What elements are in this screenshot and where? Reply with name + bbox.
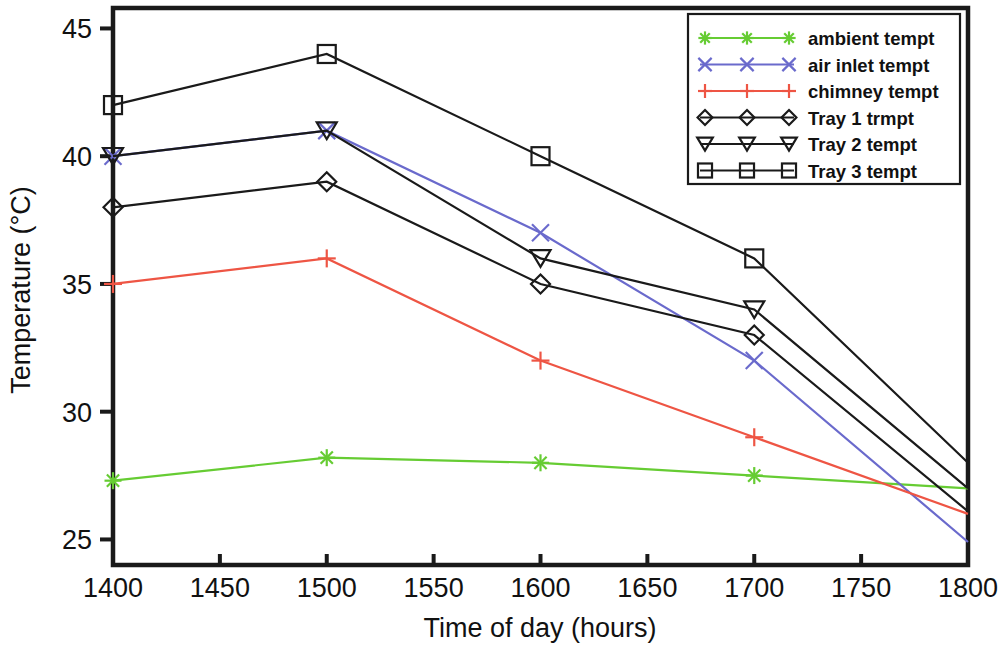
x-tick-label: 1600 [510, 573, 570, 603]
x-tick-label: 1550 [404, 573, 464, 603]
data-point-marker [532, 454, 549, 471]
y-tick-label: 30 [62, 398, 92, 428]
x-tick-label: 1650 [617, 573, 677, 603]
y-tick-label: 35 [62, 270, 92, 300]
data-point-marker [532, 352, 550, 370]
legend-label: air inlet tempt [808, 55, 929, 76]
x-tick-label: 1500 [297, 573, 357, 603]
x-tick-label: 1400 [83, 573, 143, 603]
data-point-marker [104, 275, 122, 293]
x-tick-label: 1800 [938, 573, 998, 603]
data-point-marker [740, 31, 753, 44]
data-point-marker [745, 428, 763, 446]
data-point-marker [746, 467, 763, 484]
y-axis-title: Temperature (°C) [6, 186, 36, 393]
series-ambient-tempt [105, 449, 969, 489]
chart-legend: ambient temptair inlet temptchimney temp… [688, 14, 960, 184]
legend-label: ambient tempt [808, 28, 934, 49]
x-axis-title: Time of day (hours) [423, 613, 656, 643]
legend-label: Tray 1 trmpt [808, 108, 914, 129]
data-point-marker [746, 352, 763, 369]
temperature-line-chart: 140014501500155016001650170017501800 253… [0, 0, 999, 649]
data-point-marker [532, 224, 549, 241]
series-line [113, 258, 968, 514]
y-tick-label: 40 [62, 142, 92, 172]
legend-label: Tray 2 tempt [808, 134, 917, 155]
chart-canvas: 140014501500155016001650170017501800 253… [0, 0, 999, 649]
x-tick-label: 1450 [190, 573, 250, 603]
legend-label: chimney tempt [808, 81, 939, 102]
x-axis-tick-labels: 140014501500155016001650170017501800 [83, 573, 998, 603]
x-tick-label: 1750 [831, 573, 891, 603]
y-tick-label: 25 [62, 525, 92, 555]
x-tick-label: 1700 [724, 573, 784, 603]
y-tick-label: 45 [62, 14, 92, 44]
data-point-marker [318, 249, 336, 267]
series-air-inlet-tempt [105, 122, 969, 542]
y-axis-tick-labels: 2530354045 [62, 14, 92, 555]
data-point-marker [782, 31, 795, 44]
data-point-marker [698, 31, 711, 44]
data-point-marker [105, 472, 122, 489]
legend-label: Tray 3 tempt [808, 161, 917, 182]
series-tray-1-trmpt [104, 172, 969, 511]
data-point-marker [318, 449, 335, 466]
